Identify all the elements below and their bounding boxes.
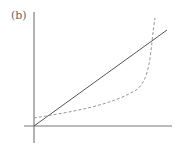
dashed-curve <box>34 18 155 118</box>
diagram-panel-b: (b) <box>0 0 182 153</box>
plot-canvas <box>0 0 182 153</box>
solid-line <box>34 30 167 126</box>
